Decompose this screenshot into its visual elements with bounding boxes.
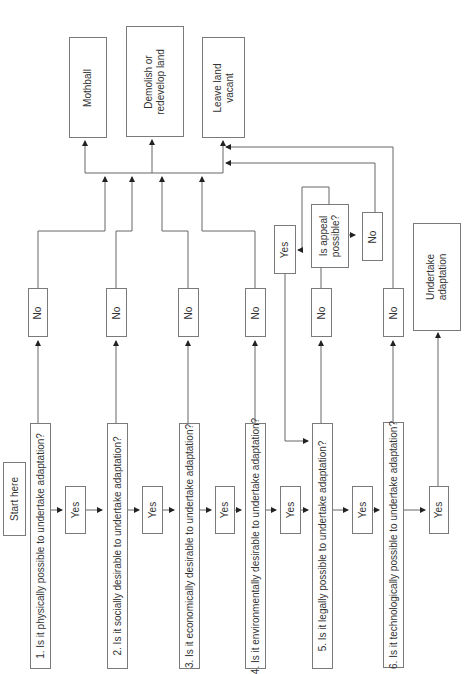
- question-5: 5. Is it legally possible to undertake a…: [312, 423, 333, 669]
- question-label: 6. Is it technologically possible to und…: [388, 421, 400, 669]
- yes-box-2: Yes: [142, 486, 163, 534]
- yes-box-appeal: Yes: [274, 225, 296, 274]
- yes-label: Yes: [219, 502, 231, 518]
- appeal-question-label: Is appeal possible?: [318, 209, 342, 264]
- no-label: No: [111, 306, 123, 319]
- no-box-5: No: [311, 288, 332, 337]
- question-label: 1. Is it physically possible to undertak…: [35, 433, 47, 659]
- question-2: 2. Is it socially desirable to undertake…: [107, 423, 128, 669]
- yes-label: Yes: [147, 502, 159, 518]
- outcome-demolish: Demolish or redevelop land: [126, 26, 184, 137]
- question-label: 2. Is it socially desirable to undertake…: [112, 436, 124, 655]
- appeal-question-box: Is appeal possible?: [311, 204, 349, 268]
- outcome-label: Undertake adaptation: [425, 242, 449, 312]
- yes-box-5: Yes: [352, 486, 373, 534]
- no-label: No: [367, 230, 379, 243]
- question-1: 1. Is it physically possible to undertak…: [30, 423, 51, 669]
- outcome-mothball: Mothball: [69, 37, 107, 138]
- outcome-label: Leave land vacant: [212, 58, 236, 118]
- no-box-3: No: [178, 288, 199, 337]
- no-label: No: [32, 306, 44, 319]
- start-label: Start here: [9, 477, 21, 521]
- yes-box-6: Yes: [429, 486, 449, 534]
- question-label: 5. Is it legally possible to undertake a…: [317, 441, 329, 652]
- no-label: No: [250, 306, 262, 319]
- outcome-label: Mothball: [82, 69, 94, 107]
- yes-box-4: Yes: [280, 486, 301, 534]
- question-3: 3. Is it economically desirable to under…: [179, 423, 200, 669]
- question-label: 3. Is it economically desirable to under…: [184, 424, 196, 668]
- no-box-2: No: [106, 288, 127, 337]
- question-label: 4. Is it environmentally desirable to un…: [250, 418, 262, 674]
- yes-label: Yes: [357, 502, 369, 518]
- no-label: No: [183, 306, 195, 319]
- outcome-label: Demolish or redevelop land: [143, 47, 167, 117]
- no-box-6: No: [383, 288, 404, 337]
- question-6: 6. Is it technologically possible to und…: [383, 422, 404, 668]
- no-label: No: [316, 306, 328, 319]
- yes-label: Yes: [285, 502, 297, 518]
- yes-label: Yes: [279, 241, 291, 257]
- start-box: Start here: [3, 462, 26, 536]
- outcome-leave-vacant: Leave land vacant: [202, 37, 245, 138]
- outcome-undertake-adaptation: Undertake adaptation: [413, 223, 461, 331]
- no-label: No: [388, 306, 400, 319]
- yes-box-1: Yes: [65, 486, 86, 534]
- yes-box-3: Yes: [215, 486, 235, 534]
- no-box-1: No: [28, 288, 48, 337]
- yes-label: Yes: [433, 502, 445, 518]
- no-box-appeal: No: [362, 212, 383, 261]
- question-4: 4. Is it environmentally desirable to un…: [245, 423, 266, 669]
- no-box-4: No: [245, 288, 266, 337]
- yes-label: Yes: [70, 502, 82, 518]
